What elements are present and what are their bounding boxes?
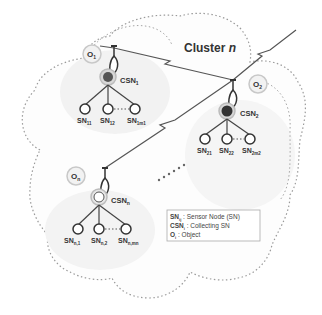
sn-node <box>121 224 131 234</box>
sn-node <box>94 224 104 234</box>
sn-node <box>80 104 90 114</box>
sn-node <box>222 134 232 144</box>
sn-node <box>245 134 255 144</box>
cluster-diagram: O1 CSN1 SN11 SN12 SN1m1 O2 <box>0 0 322 315</box>
csn-n-core <box>94 192 104 202</box>
cluster-title: Cluster n <box>184 41 236 55</box>
csn-2-core <box>222 106 233 117</box>
sn-node <box>103 104 113 114</box>
sn-node <box>200 134 210 144</box>
sn-node <box>130 104 140 114</box>
sn-node <box>73 224 83 234</box>
csn-1-core <box>103 72 113 82</box>
legend: SNij : Sensor Node (SN) CSNi : Collectin… <box>167 210 260 241</box>
